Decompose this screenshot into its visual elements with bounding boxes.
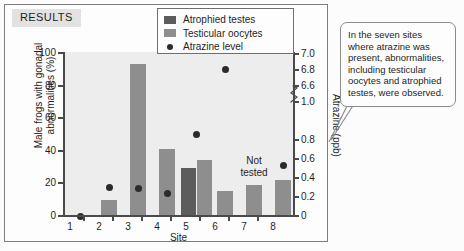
bar-testicular-oocytes-site4 xyxy=(159,149,175,216)
y-axis-left-tick xyxy=(58,182,64,184)
y-axis-left-tick xyxy=(58,117,64,119)
x-axis-tick xyxy=(170,216,172,221)
y-axis-right-tick xyxy=(293,158,299,160)
point-atrazine-site3 xyxy=(135,185,142,192)
bar-atrophied-testes-site5 xyxy=(181,168,196,216)
y-axis-right-tick xyxy=(293,139,299,141)
x-axis-tick-label-site7: 7 xyxy=(234,221,254,232)
x-axis-tick xyxy=(228,216,230,221)
y-axis-right-tick xyxy=(293,177,299,179)
y-axis-right-tick-label: 6.8 xyxy=(301,65,331,75)
x-axis-tick xyxy=(141,216,143,221)
x-axis-tick-label-site6: 6 xyxy=(205,221,225,232)
y-axis-right-tick xyxy=(293,69,299,71)
y-axis-right-tick-label: 7.0 xyxy=(301,49,331,59)
x-axis-tick xyxy=(83,216,85,221)
y-axis-left-tick-label: 0 xyxy=(22,211,56,221)
y-axis-left-title: Male frogs with gonadal abnormalities (%… xyxy=(33,16,56,176)
bar-testicular-oocytes-site8 xyxy=(275,180,291,216)
legend-swatch-icon xyxy=(164,16,176,24)
y-axis-left-tick-label: 20 xyxy=(22,178,56,188)
bar-testicular-oocytes-site5 xyxy=(197,160,212,216)
legend-item-atrophied-testes: Atrophied testes xyxy=(164,13,293,27)
x-axis-tick xyxy=(257,216,259,221)
x-axis-tick-label-site1: 1 xyxy=(60,221,80,232)
chart-legend: Atrophied testes Testicular oocytes Atra… xyxy=(157,8,294,54)
legend-dot-icon xyxy=(164,44,176,50)
bar-testicular-oocytes-site3 xyxy=(130,64,146,217)
y-axis-right-tick-label: 0 xyxy=(301,211,331,221)
callout-text-box: In the seven sites where atrazine was pr… xyxy=(340,22,456,107)
y-axis-left-tick xyxy=(58,215,64,217)
y-axis-right-break-icon xyxy=(289,85,301,107)
point-atrazine-site6 xyxy=(222,66,229,73)
legend-item-label: Atrophied testes xyxy=(183,14,255,25)
y-axis-right-tick xyxy=(293,196,299,198)
x-axis-tick xyxy=(112,216,114,221)
point-atrazine-site2 xyxy=(106,184,113,191)
x-axis-tick-label-site8: 8 xyxy=(263,221,283,232)
x-axis-tick-label-site5: 5 xyxy=(176,221,196,232)
y-axis-left-tick xyxy=(58,85,64,87)
legend-item-label: Atrazine level xyxy=(183,41,243,52)
x-axis-tick-label-site4: 4 xyxy=(147,221,167,232)
x-axis-line xyxy=(63,215,294,217)
y-axis-left-tick xyxy=(58,150,64,152)
results-figure: RESULTS Atrophied testes Testicular oocy… xyxy=(0,0,464,251)
callout-text: In the seven sites where atrazine was pr… xyxy=(348,29,444,98)
y-axis-right-line xyxy=(293,52,295,216)
x-axis-title: Site xyxy=(63,232,294,243)
y-axis-right-tick-label: 0.6 xyxy=(301,154,331,164)
legend-swatch-icon xyxy=(164,29,176,37)
legend-item-testicular-oocytes: Testicular oocytes xyxy=(164,27,293,41)
results-badge: RESULTS xyxy=(12,9,81,27)
y-axis-left-line xyxy=(63,52,65,216)
not-tested-annotation-line1: Not xyxy=(231,155,277,167)
y-axis-right-tick xyxy=(293,215,299,217)
x-axis-tick-label-site3: 3 xyxy=(118,221,138,232)
y-axis-left-tick xyxy=(58,52,64,54)
bar-testicular-oocytes-site6 xyxy=(217,191,233,216)
y-axis-right-tick-label: 0.4 xyxy=(301,173,331,183)
bar-testicular-oocytes-site2 xyxy=(101,200,117,216)
plot-area: Not tested xyxy=(63,52,294,216)
legend-item-atrazine-level: Atrazine level xyxy=(164,40,293,54)
not-tested-annotation-line2: tested xyxy=(231,167,277,179)
point-atrazine-site5 xyxy=(193,131,200,138)
bar-testicular-oocytes-site7 xyxy=(246,185,262,216)
point-atrazine-site8 xyxy=(280,162,287,169)
legend-item-label: Testicular oocytes xyxy=(183,28,262,39)
y-axis-right-tick-label: 0.2 xyxy=(301,192,331,202)
x-axis-tick-label-site2: 2 xyxy=(89,221,109,232)
point-atrazine-site4 xyxy=(164,190,171,197)
x-axis-tick xyxy=(199,216,201,221)
